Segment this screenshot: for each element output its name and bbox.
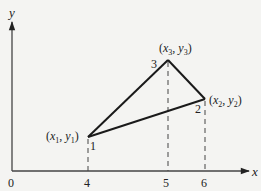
- node-2-coord-label: (x2, y2): [209, 93, 242, 109]
- edge-3-2: [168, 60, 205, 99]
- x-tick-6: 6: [201, 176, 207, 190]
- node-1-number: 1: [90, 139, 96, 153]
- origin-label: 0: [8, 176, 14, 190]
- node-3-number: 3: [151, 57, 157, 71]
- y-axis-label: y: [7, 5, 15, 20]
- node-1-coord-label: (x1, y1): [46, 129, 79, 145]
- x-tick-4: 4: [84, 176, 90, 190]
- svg-text:(x3, y3): (x3, y3): [159, 41, 192, 57]
- edge-2-1: [88, 99, 205, 137]
- node-2-number: 2: [195, 102, 201, 116]
- edge-1-3: [88, 60, 168, 137]
- x-tick-5: 5: [163, 176, 169, 190]
- svg-text:(x2, y2): (x2, y2): [209, 93, 242, 109]
- triangle-element-diagram: y x 0 4 5 6 1 2 3 (x1, y1) (x3, y3) (x2,…: [0, 0, 261, 191]
- svg-text:(x1, y1): (x1, y1): [46, 129, 79, 145]
- node-3-coord-label: (x3, y3): [159, 41, 192, 57]
- x-axis-label: x: [251, 164, 258, 179]
